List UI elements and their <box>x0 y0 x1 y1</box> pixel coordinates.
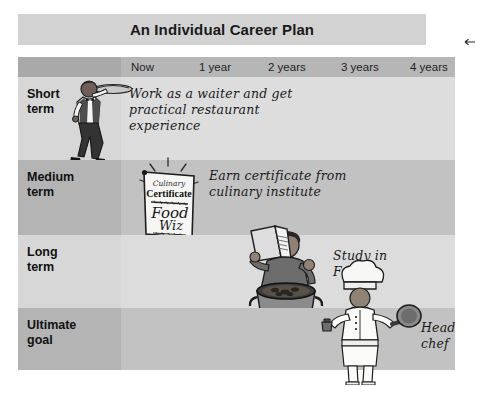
timeline-tick-1-year: 1 year <box>199 57 231 77</box>
row-content-cell-ultimate-goal: Head chef <box>121 308 455 370</box>
timeline-tick-2-years: 2 years <box>268 57 306 77</box>
svg-text:Culinary: Culinary <box>153 179 186 188</box>
title-bar: An Individual Career Plan <box>18 14 426 45</box>
timeline-tick-3-years: 3 years <box>341 57 379 77</box>
row-label-cell-medium-term: Medium term <box>18 160 121 235</box>
row-label-medium-term: Medium term <box>27 170 74 200</box>
head-chef-with-frying-pan-icon <box>304 260 424 389</box>
row-label-cell-ultimate-goal: Ultimate goal <box>18 308 121 370</box>
table-row-short-term: Short term Work as a waiter and get prac… <box>18 77 455 160</box>
row-label-ultimate-goal: Ultimate goal <box>27 318 76 348</box>
row-label-cell-long-term: Long term <box>18 235 121 308</box>
left-arrow-marker-icon <box>462 33 476 43</box>
career-plan-table: Now 1 year 2 years 3 years 4 years Short… <box>18 57 455 370</box>
page-title: An Individual Career Plan <box>18 14 426 45</box>
row-content-cell-short-term: Work as a waiter and get practical resta… <box>121 77 455 160</box>
svg-text:Certificate: Certificate <box>146 188 192 199</box>
table-row-ultimate-goal: Ultimate goal <box>18 308 455 370</box>
goal-text-ultimate-goal: Head chef <box>421 320 456 352</box>
row-label-long-term: Long term <box>27 245 58 275</box>
row-label-short-term: Short term <box>27 87 60 117</box>
goal-text-short-term: Work as a waiter and get practical resta… <box>129 86 293 134</box>
svg-text:Wiz: Wiz <box>159 218 183 233</box>
timeline-tick-4-years: 4 years <box>410 57 448 77</box>
